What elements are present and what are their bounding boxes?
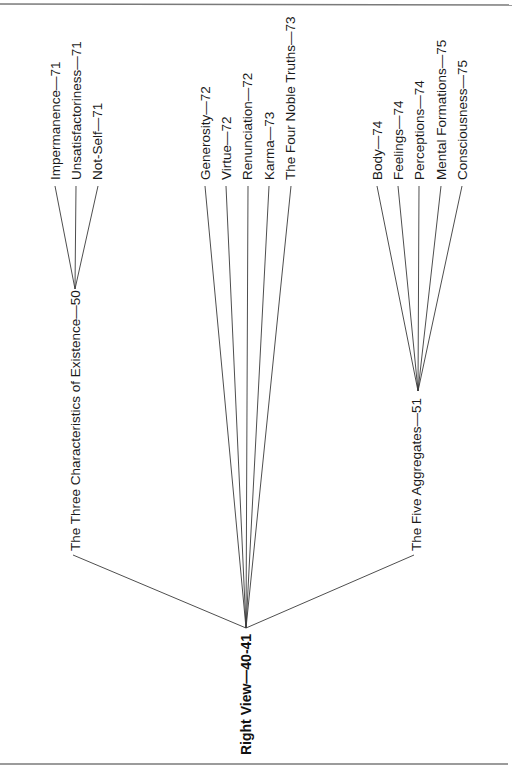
leaf-unsatisfactoriness: Unsatisfactoriness—71 (69, 41, 84, 180)
branch-label-three-characteristics: The Three Characteristics of Existence—5… (68, 290, 83, 551)
leaf-karma: Karma—73 (262, 112, 277, 180)
leaf-four-noble-truths: The Four Noble Truths—73 (283, 16, 298, 180)
leaf-consciousness: Consciousness—75 (455, 60, 470, 180)
leaf-feelings: Feelings—74 (391, 100, 406, 180)
leaf-virtue: Virtue—72 (219, 116, 234, 180)
edge-root-to-three-characteristics (73, 555, 246, 628)
leaf-mental-formations: Mental Formations—75 (434, 40, 449, 180)
edge-root-to-virtue (226, 186, 246, 628)
edge-to-not-self (75, 186, 98, 289)
edge-to-feelings (398, 186, 418, 391)
top-rule (0, 4, 512, 5)
edge-to-perceptions (418, 186, 419, 391)
leaf-renunciation: Renunciation—72 (240, 73, 255, 180)
edge-to-unsatisfactoriness (75, 186, 76, 289)
edge-to-body (377, 186, 418, 391)
edge-root-to-four-noble-truths (246, 186, 291, 628)
leaf-generosity: Generosity—72 (198, 86, 213, 180)
edge-root-to-generosity (205, 186, 246, 628)
edge-root-to-karma (246, 186, 269, 628)
root-label: Right View—40-41 (238, 634, 254, 755)
edge-root-to-five-aggregates (246, 555, 414, 628)
root-edges (73, 186, 414, 628)
leaf-impermanence: Impermanence—71 (48, 61, 63, 180)
branch-label-five-aggregates: The Five Aggregates—51 (409, 398, 424, 551)
edge-to-mental-formations (418, 186, 441, 391)
leaf-perceptions: Perceptions—74 (412, 80, 427, 180)
five-aggregates-edges (377, 186, 462, 391)
three-characteristics-edges (55, 186, 98, 289)
concept-tree-diagram: Right View—40-41 The Three Characteristi… (0, 0, 527, 780)
leaf-body: Body—74 (370, 120, 385, 180)
edge-root-to-renunciation (246, 186, 248, 628)
edge-to-consciousness (418, 186, 462, 391)
leaf-not-self: Not-Self—71 (90, 103, 105, 180)
edge-to-impermanence (55, 186, 75, 289)
